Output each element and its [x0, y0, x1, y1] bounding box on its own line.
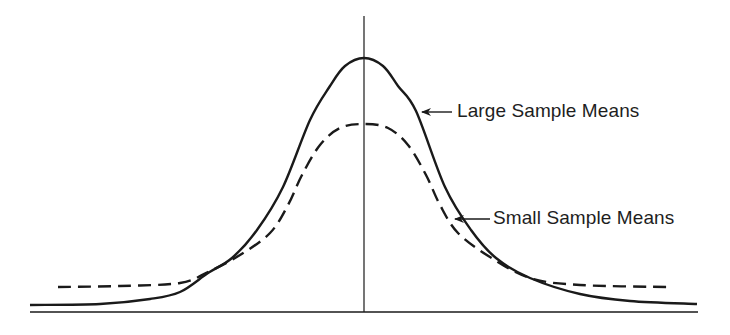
small-sample-means-label: Small Sample Means — [493, 208, 674, 227]
large-sample-means-label: Large Sample Means — [457, 101, 639, 120]
distribution-chart — [0, 0, 730, 335]
